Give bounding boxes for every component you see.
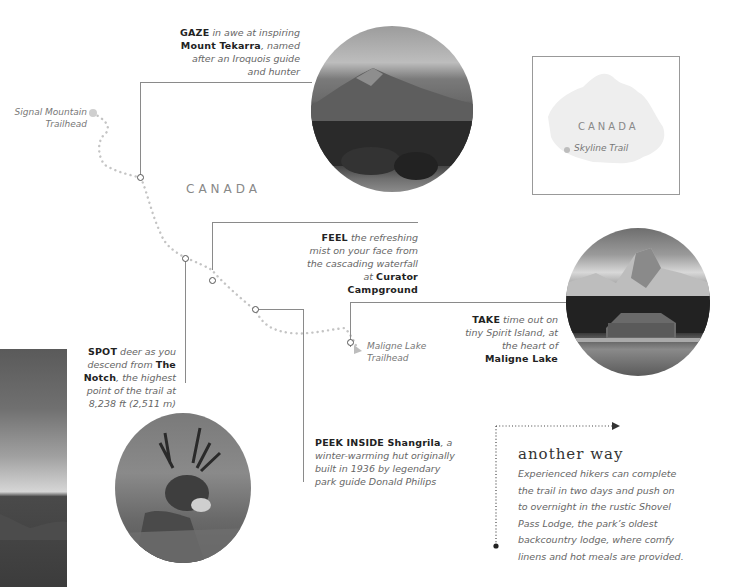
mount-tekarra-photo xyxy=(311,26,473,192)
map-country-label: CANADA xyxy=(186,182,261,196)
callout-peek: PEEK INSIDE Shangrila, a winter-warming … xyxy=(315,436,475,488)
inset-country-label: CANADA xyxy=(578,121,639,132)
leader-feel-horizontal xyxy=(212,222,418,223)
end-trailhead-label: Maligne Lake Trailhead xyxy=(367,340,426,364)
callout-gaze: GAZE in awe at inspiring Mount Tekarra, … xyxy=(170,26,300,78)
sidebar-line: Pass Lodge, the park’s oldest xyxy=(518,516,684,533)
arrow-right-icon xyxy=(612,422,620,430)
sidebar-body: Experienced hikers can complete the trai… xyxy=(518,466,684,565)
start-trailhead-line1: Signal Mountain xyxy=(0,106,87,118)
start-trailhead-label: Signal Mountain Trailhead xyxy=(0,106,87,130)
inset-marker-label: Skyline Trail xyxy=(574,143,628,153)
leader-peek-horizontal xyxy=(255,309,303,310)
callout-spot: SPOT deer as you descend from The Notch,… xyxy=(80,345,176,410)
sidebar-line: linens and hot meals are provided. xyxy=(518,549,684,566)
callout-feel: FEEL the refreshing mist on your face fr… xyxy=(300,231,418,296)
waypoint-take[interactable] xyxy=(347,339,354,346)
sidebar-title: another way xyxy=(518,445,623,463)
end-arrow-icon xyxy=(354,345,362,354)
inset-map: CANADA Skyline Trail xyxy=(532,56,680,195)
sidebar-line: Experienced hikers can complete xyxy=(518,466,684,483)
leader-take-horizontal xyxy=(350,302,570,303)
waypoint-spot[interactable] xyxy=(182,255,189,262)
sidebar-line: the trail in two days and push on xyxy=(518,483,684,500)
inset-marker xyxy=(564,147,570,153)
leader-spot-vertical xyxy=(185,258,186,383)
end-trailhead-line2: Trailhead xyxy=(367,352,426,364)
waypoint-feel[interactable] xyxy=(209,277,216,284)
deer-photo xyxy=(115,413,251,563)
sidebar-line: backcountry lodge, where comfy xyxy=(518,532,684,549)
maligne-lake-photo xyxy=(566,228,710,376)
callout-take: TAKE time out on tiny Spirit Island, at … xyxy=(460,313,558,365)
bullet-dot-icon xyxy=(493,543,498,548)
end-trailhead-line1: Maligne Lake xyxy=(367,340,426,352)
waypoint-peek[interactable] xyxy=(252,306,259,313)
start-trailhead-line2: Trailhead xyxy=(0,118,87,130)
leader-gaze-horizontal xyxy=(140,82,312,83)
start-trailhead-marker xyxy=(89,109,97,117)
leader-peek-vertical xyxy=(303,309,304,482)
leader-feel-vertical xyxy=(212,222,213,270)
leader-gaze-vertical xyxy=(140,82,141,178)
sidebar-line: to overnight in the rustic Shovel xyxy=(518,499,684,516)
waypoint-gaze[interactable] xyxy=(137,174,144,181)
